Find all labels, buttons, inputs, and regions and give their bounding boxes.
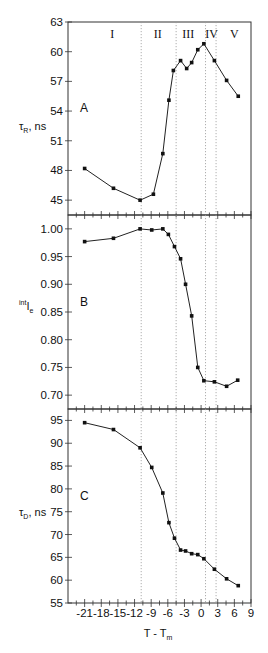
y-tick-label: 80 [50, 483, 63, 495]
y-tick-label: 0.95 [41, 251, 63, 263]
plot-frame [68, 409, 251, 603]
data-point [225, 79, 229, 83]
plot-frame [68, 215, 251, 409]
x-tick-label: 3 [215, 607, 221, 619]
x-tick-label: -12 [126, 607, 143, 619]
series-line [85, 423, 239, 586]
data-point [167, 521, 171, 525]
y-tick-label: 57 [50, 75, 63, 87]
x-tick-label: -9 [146, 607, 156, 619]
region-label: IV [205, 27, 218, 41]
data-point [173, 536, 177, 540]
data-point [196, 553, 200, 557]
y-tick-label: 60 [50, 46, 63, 58]
region-label: V [230, 27, 239, 41]
panel-letter: A [80, 101, 88, 115]
data-point [112, 186, 116, 190]
data-point [190, 552, 194, 556]
y-axis-title: τD, ns [19, 506, 47, 520]
y-tick-label: 48 [50, 164, 63, 176]
data-point [213, 567, 217, 571]
data-point [152, 192, 156, 196]
data-point [184, 282, 188, 286]
data-point [83, 167, 87, 171]
data-point [172, 69, 176, 73]
y-tick-label: 75 [50, 506, 63, 518]
data-point [179, 59, 183, 63]
x-axis-title: T - Tm [144, 627, 173, 641]
data-point [184, 549, 188, 553]
y-tick-label: 51 [50, 135, 63, 147]
series-line [85, 44, 239, 200]
data-point [213, 380, 217, 384]
data-point [236, 378, 240, 382]
data-point [167, 233, 171, 237]
y-tick-label: 54 [50, 105, 63, 117]
data-point [225, 577, 229, 581]
y-tick-label: 70 [50, 529, 63, 541]
figure-canvas: 45485154576063AτR, ns0.700.750.800.850.9… [0, 0, 268, 653]
data-point [138, 198, 142, 202]
x-tick-label: -3 [179, 607, 189, 619]
data-point [202, 42, 206, 46]
y-tick-label: 0.80 [41, 334, 63, 346]
data-point [161, 227, 165, 231]
data-point [179, 257, 183, 261]
y-tick-label: 55 [50, 597, 63, 609]
x-tick-label: 0 [198, 607, 204, 619]
y-tick-label: 63 [50, 16, 63, 28]
panel-letter: B [80, 295, 88, 309]
y-tick-label: 0.90 [41, 278, 63, 290]
data-point [190, 61, 194, 65]
panel-b: 0.700.750.800.850.900.951.00BintIe [19, 215, 251, 413]
plot-frame [68, 22, 251, 215]
y-tick-label: 0.85 [41, 306, 63, 318]
data-point [138, 446, 142, 450]
data-point [173, 245, 177, 249]
data-point [185, 67, 189, 71]
y-tick-label: 1.00 [41, 223, 63, 235]
y-tick-label: 65 [50, 551, 63, 563]
y-tick-label: 85 [50, 460, 63, 472]
region-label: I [110, 27, 114, 41]
y-axis-title: τR, ns [19, 120, 47, 134]
data-point [236, 584, 240, 588]
data-point [161, 491, 165, 495]
region-label: II [154, 27, 162, 41]
data-point [112, 428, 116, 432]
y-tick-label: 45 [50, 194, 63, 206]
x-tick-label: 6 [231, 607, 237, 619]
data-point [196, 366, 200, 370]
x-tick-label: -21 [76, 607, 93, 619]
x-tick-label: -6 [163, 607, 173, 619]
panel-c: 556065707580859095CτD, ns [19, 409, 251, 609]
x-tick-label: -18 [93, 607, 110, 619]
region-label: III [182, 27, 194, 41]
data-point [83, 421, 87, 425]
data-point [225, 384, 229, 388]
y-axis-title: intIe [19, 299, 33, 314]
data-point [190, 314, 194, 318]
data-point [179, 548, 183, 552]
data-point [112, 236, 116, 240]
data-point [83, 240, 87, 244]
y-tick-label: 0.70 [41, 389, 63, 401]
panel-letter: C [80, 489, 89, 503]
panel-a: 45485154576063AτR, ns [19, 16, 251, 219]
data-point [150, 228, 154, 232]
y-tick-label: 90 [50, 437, 63, 449]
data-point [161, 152, 165, 156]
data-point [236, 94, 240, 98]
y-tick-label: 95 [50, 414, 63, 426]
series-line [85, 229, 238, 386]
x-tick-label: 9 [248, 607, 254, 619]
data-point [202, 379, 206, 383]
data-point [213, 59, 217, 63]
data-point [202, 557, 206, 561]
x-tick-label: -15 [110, 607, 127, 619]
data-point [150, 466, 154, 470]
data-point [196, 48, 200, 52]
y-tick-label: 60 [50, 574, 63, 586]
y-tick-label: 0.75 [41, 361, 63, 373]
data-point [138, 227, 142, 231]
